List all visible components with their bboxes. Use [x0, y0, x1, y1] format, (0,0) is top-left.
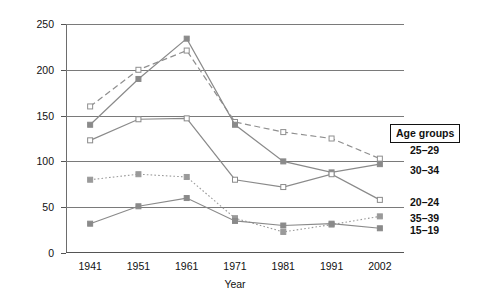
data-point-marker [329, 136, 334, 141]
data-point-marker [136, 204, 141, 209]
data-point-marker [233, 122, 238, 127]
data-point-marker [184, 174, 189, 179]
data-point-marker [136, 67, 141, 72]
y-tick-mark [61, 253, 66, 254]
data-point-marker [88, 104, 93, 109]
data-point-marker [88, 138, 93, 143]
x-tick-label: 1991 [320, 260, 343, 272]
data-point-marker [136, 172, 141, 177]
data-point-marker [184, 36, 189, 41]
data-point-marker [377, 197, 382, 202]
plot-area: 1941195119611971198119912002 Year [66, 24, 404, 253]
data-point-marker [377, 156, 382, 161]
data-point-marker [281, 185, 286, 190]
legend-label-35-39: 35–39 [410, 212, 439, 224]
x-tick-label: 1941 [78, 260, 101, 272]
data-point-marker [184, 116, 189, 121]
y-tick-label: 50 [0, 201, 54, 213]
legend-label-20-24: 20–24 [410, 196, 439, 208]
series-line [90, 118, 380, 200]
data-point-marker [329, 221, 334, 226]
x-tick-label: 1961 [175, 260, 198, 272]
data-point-marker [184, 48, 189, 53]
legend-label-25-29: 25–29 [410, 144, 439, 156]
data-point-marker [136, 76, 141, 81]
data-point-marker [281, 130, 286, 135]
data-point-marker [377, 226, 382, 231]
y-tick-label: 0 [0, 247, 54, 259]
series-line [90, 51, 380, 159]
data-point-marker [281, 159, 286, 164]
data-point-marker [233, 218, 238, 223]
data-point-marker [136, 117, 141, 122]
x-tick-label: 1951 [127, 260, 150, 272]
legend-label-30-34: 30–34 [410, 164, 439, 176]
x-tick-label: 2002 [368, 260, 391, 272]
data-point-marker [281, 223, 286, 228]
data-point-marker [329, 172, 334, 177]
x-axis-title: Year [224, 278, 245, 290]
y-tick-label: 100 [0, 155, 54, 167]
births-by-age-group-line-chart: Births per 1000 women 050100150200250 19… [0, 0, 479, 303]
data-point-marker [88, 221, 93, 226]
series-line [90, 39, 380, 173]
data-point-marker [233, 177, 238, 182]
data-point-marker [377, 162, 382, 167]
data-point-marker [281, 229, 286, 234]
series-plot [66, 24, 404, 253]
data-point-marker [184, 196, 189, 201]
data-point-marker [377, 214, 382, 219]
y-tick-label: 150 [0, 110, 54, 122]
y-tick-label: 200 [0, 64, 54, 76]
legend-label-15-19: 15–19 [410, 224, 439, 236]
data-point-marker [88, 177, 93, 182]
x-tick-label: 1981 [272, 260, 295, 272]
x-tick-label: 1971 [223, 260, 246, 272]
data-point-marker [88, 122, 93, 127]
y-tick-label: 250 [0, 18, 54, 30]
legend-title-box: Age groups [390, 124, 460, 143]
